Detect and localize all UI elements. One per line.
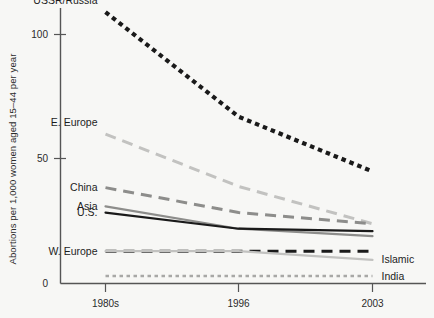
x-tick-label-1980s: 1980s xyxy=(92,298,119,309)
y-tick-label-100: 100 xyxy=(31,29,48,40)
y-tick-label-50: 50 xyxy=(37,153,49,164)
series-label-w-europe: W. Europe xyxy=(48,245,97,257)
y-tick-label-0: 0 xyxy=(42,278,48,289)
y-axis-title: Abortions per 1,000 women aged 15–44 per… xyxy=(7,54,18,265)
series-label-india: India xyxy=(382,270,405,282)
series-label-u-s: U.S. xyxy=(77,206,97,218)
x-tick-label-1996: 1996 xyxy=(227,298,250,309)
series-label-islamic: Islamic xyxy=(382,253,415,265)
chart-container: 100 50 0 1980s 1996 2003 Abortions per 1… xyxy=(0,0,434,318)
series-label-china: China xyxy=(70,181,98,193)
x-tick-label-2003: 2003 xyxy=(361,298,384,309)
series-label-ussr-russia: USSR/Russia xyxy=(33,0,97,6)
line-chart: 100 50 0 1980s 1996 2003 Abortions per 1… xyxy=(0,0,434,318)
series-label-e-europe: E. Europe xyxy=(51,116,98,128)
